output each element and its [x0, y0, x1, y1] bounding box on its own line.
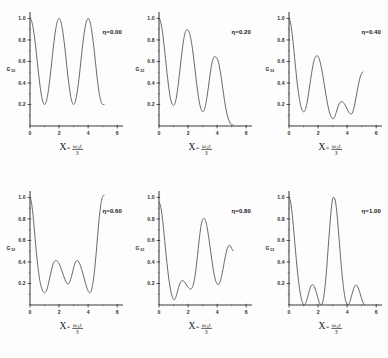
y-axis-label-subscript: 22 — [270, 248, 274, 252]
y-tick-label: 0.8 — [148, 37, 156, 43]
x-caption-denominator: 3 — [205, 329, 208, 335]
x-caption-denominator: 3 — [334, 150, 337, 156]
y-tick-label: 0.6 — [18, 237, 26, 243]
data-curve — [289, 197, 365, 305]
x-tick-label: 6 — [116, 309, 119, 315]
plot-panel: 0.20.40.60.81.00246G22η=0.20X=ω0t3 — [129, 0, 258, 179]
plot-panel: 0.20.40.60.81.00246G22η=0.40X=ω0t3 — [259, 0, 388, 179]
x-caption-equals: = — [67, 145, 70, 151]
x-tick-label: 2 — [316, 130, 319, 136]
x-tick-label: 0 — [287, 309, 290, 315]
x-tick-label: 0 — [158, 130, 161, 136]
y-tick-label: 0.8 — [148, 216, 156, 222]
x-caption-symbol: X — [318, 321, 325, 331]
x-caption-numerator-omega: ω — [332, 143, 336, 149]
figure-root: 0.20.40.60.81.00246G22η=0.00X=ω0t30.20.4… — [0, 0, 388, 358]
x-caption-symbol: X — [189, 321, 196, 331]
y-tick-label: 0.4 — [148, 259, 156, 265]
y-axis-label-subscript: 22 — [11, 69, 15, 73]
y-tick-label: 1.0 — [148, 194, 156, 200]
y-tick-label: 0.4 — [277, 259, 285, 265]
x-tick-label: 2 — [58, 309, 61, 315]
x-tick-label: 4 — [345, 309, 348, 315]
y-axis-label-subscript: 22 — [270, 69, 274, 73]
y-tick-label: 0.4 — [277, 80, 285, 86]
y-tick-label: 0.2 — [18, 280, 26, 286]
plot-panel: 0.20.40.60.81.00246G22η=0.60X=ω0t3 — [0, 179, 129, 358]
y-axis-label-subscript: 22 — [141, 248, 145, 252]
x-tick-label: 0 — [158, 309, 161, 315]
plot-panel: 0.20.40.60.81.00246G22η=1.00X=ω0t3 — [259, 179, 388, 358]
y-tick-label: 0.4 — [148, 80, 156, 86]
x-tick-label: 4 — [87, 130, 90, 136]
eta-annotation: η=0.80 — [232, 208, 252, 214]
x-caption-denominator: 3 — [76, 150, 79, 156]
y-tick-label: 0.2 — [18, 101, 26, 107]
eta-annotation: η=1.00 — [361, 208, 381, 214]
x-caption-numerator-omega: ω — [202, 322, 206, 328]
y-tick-label: 1.0 — [277, 15, 285, 21]
y-tick-label: 0.6 — [18, 58, 26, 64]
eta-annotation: η=0.00 — [103, 29, 123, 35]
x-tick-label: 4 — [87, 309, 90, 315]
data-curve — [289, 18, 363, 118]
y-axis-label: G — [7, 245, 11, 251]
y-axis-label: G — [265, 66, 269, 72]
x-caption-symbol: X — [318, 142, 325, 152]
x-caption-symbol: X — [60, 142, 67, 152]
x-caption-numerator-t: t — [209, 322, 211, 328]
y-tick-label: 0.8 — [277, 37, 285, 43]
x-caption-equals: = — [67, 324, 70, 330]
y-axis-label: G — [136, 66, 140, 72]
y-tick-label: 0.2 — [277, 280, 285, 286]
y-tick-label: 1.0 — [18, 194, 26, 200]
x-tick-label: 6 — [245, 309, 248, 315]
x-caption-equals: = — [196, 324, 199, 330]
y-tick-label: 0.4 — [18, 259, 26, 265]
x-tick-label: 4 — [216, 130, 219, 136]
x-tick-label: 2 — [187, 130, 190, 136]
x-caption-symbol: X — [189, 142, 196, 152]
x-caption-denominator: 3 — [76, 329, 79, 335]
x-tick-label: 0 — [29, 130, 32, 136]
x-tick-label: 4 — [345, 130, 348, 136]
y-tick-label: 0.8 — [18, 37, 26, 43]
y-axis-label: G — [7, 66, 11, 72]
data-curve — [30, 195, 104, 292]
y-axis-label: G — [265, 245, 269, 251]
x-caption-denominator: 3 — [205, 150, 208, 156]
y-tick-label: 0.6 — [277, 237, 285, 243]
x-tick-label: 2 — [187, 309, 190, 315]
x-caption-numerator-t: t — [80, 322, 82, 328]
x-caption-numerator-t: t — [209, 143, 211, 149]
y-tick-label: 0.2 — [148, 101, 156, 107]
data-curve — [30, 18, 104, 104]
eta-annotation: η=0.40 — [361, 29, 381, 35]
x-caption-equals: = — [326, 145, 329, 151]
x-caption-numerator-omega: ω — [332, 322, 336, 328]
plot-panel: 0.20.40.60.81.00246G22η=0.00X=ω0t3 — [0, 0, 129, 179]
x-tick-label: 4 — [216, 309, 219, 315]
x-tick-label: 6 — [374, 130, 377, 136]
y-axis-label: G — [136, 245, 140, 251]
x-caption-numerator-t: t — [339, 322, 341, 328]
y-tick-label: 0.8 — [277, 216, 285, 222]
x-caption-numerator-t: t — [339, 143, 341, 149]
y-tick-label: 1.0 — [277, 194, 285, 200]
x-caption-numerator-omega: ω — [202, 143, 206, 149]
x-tick-label: 2 — [316, 309, 319, 315]
y-tick-label: 0.6 — [148, 58, 156, 64]
y-tick-label: 0.6 — [148, 237, 156, 243]
x-tick-label: 0 — [287, 130, 290, 136]
y-tick-label: 1.0 — [18, 15, 26, 21]
y-tick-label: 0.2 — [148, 280, 156, 286]
x-caption-symbol: X — [60, 321, 67, 331]
data-curve — [159, 202, 233, 299]
x-caption-numerator-t: t — [80, 143, 82, 149]
eta-annotation: η=0.20 — [232, 29, 252, 35]
eta-annotation: η=0.60 — [103, 208, 123, 214]
y-tick-label: 1.0 — [148, 15, 156, 21]
panel-grid: 0.20.40.60.81.00246G22η=0.00X=ω0t30.20.4… — [0, 0, 388, 358]
y-axis-label-subscript: 22 — [141, 69, 145, 73]
data-curve — [159, 18, 233, 124]
